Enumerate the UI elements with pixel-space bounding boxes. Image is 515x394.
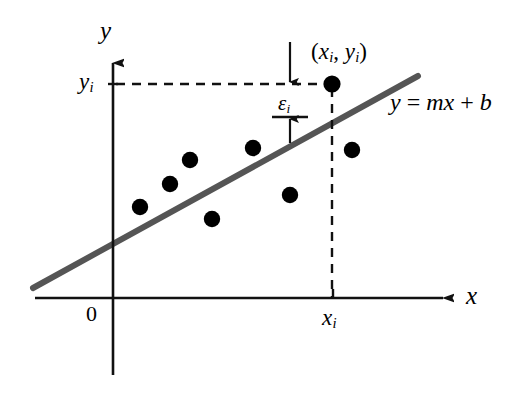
figure-canvas	[0, 0, 515, 394]
regression-equation-label: y = mx + b	[390, 90, 492, 114]
paren-close: )	[359, 39, 367, 64]
point-x-base: x	[319, 39, 329, 64]
data-point	[162, 176, 178, 192]
point-comma: ,	[333, 39, 345, 64]
x-i-tick-label: xi	[322, 306, 337, 331]
y-i-tick-label: yi	[79, 70, 94, 95]
regression-line	[33, 76, 418, 288]
equation-m: m	[426, 89, 443, 115]
y-i-subscript: i	[90, 79, 94, 95]
data-point	[245, 140, 261, 156]
x-axis-label: x	[466, 283, 477, 308]
highlighted-data-point	[323, 75, 340, 92]
equation-b: b	[480, 89, 492, 115]
data-point	[132, 199, 148, 215]
point-coordinate-label: (xi, yi)	[311, 40, 367, 65]
origin-label: 0	[86, 303, 97, 325]
equation-y: y	[390, 89, 401, 115]
epsilon-subscript: i	[287, 101, 291, 116]
equation-x: x	[444, 89, 455, 115]
equation-plus: +	[454, 89, 480, 115]
epsilon-base: ε	[278, 91, 286, 115]
y-i-base: y	[79, 69, 89, 94]
equation-equals: =	[401, 89, 427, 115]
residual-epsilon-label: εi	[278, 93, 290, 115]
x-i-base: x	[322, 305, 332, 330]
regression-figure: y x 0 yi xi (xi, yi) εi y = mx + b	[0, 0, 515, 394]
y-axis-label: y	[100, 18, 111, 43]
x-i-subscript: i	[333, 315, 337, 331]
point-y-base: y	[345, 39, 355, 64]
data-point	[282, 187, 298, 203]
paren-open: (	[311, 39, 319, 64]
data-point	[204, 211, 220, 227]
data-point	[182, 152, 198, 168]
data-point	[344, 142, 360, 158]
